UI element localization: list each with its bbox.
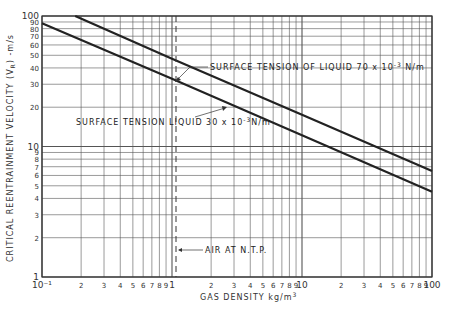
annotation-30: SURFACE TENSION LIQUID 30 x 10-3N/m <box>76 116 271 127</box>
y-tick-label: 5 <box>35 183 39 191</box>
y-tick-label: 70 <box>30 33 39 41</box>
x-axis-title: GAS DENSITY kg/m3 <box>200 291 297 302</box>
x-tick-label: 8 <box>417 282 421 290</box>
x-tick-label: 7 <box>410 282 414 290</box>
x-tick-label: 1 <box>169 280 175 290</box>
x-tick-label: 3 <box>102 282 106 290</box>
y-axis-title: CRITICAL REENTRAINMENT VELOCITY (VR) -m/… <box>6 34 16 262</box>
y-tick-label: 6 <box>35 172 40 180</box>
x-tick-label: 6 <box>271 282 276 290</box>
y-tick-label: 2 <box>35 235 39 243</box>
air-ntp-label: AIR AT N.T.P. <box>205 246 267 255</box>
x-tick-label: 3 <box>362 282 366 290</box>
x-tick-label: 9 <box>164 282 168 290</box>
y-tick-label: 100 <box>22 11 39 21</box>
x-tick-label: 100 <box>423 280 440 290</box>
x-tick-label: 4 <box>248 282 253 290</box>
x-tick-label: 4 <box>378 282 383 290</box>
x-tick-label: 7 <box>150 282 154 290</box>
x-tick-label: 2 <box>209 282 213 290</box>
x-tick-label: 8 <box>287 282 291 290</box>
x-tick-label: 4 <box>118 282 123 290</box>
x-tick-label: 2 <box>79 282 83 290</box>
data-series <box>42 16 432 192</box>
velocity-density-chart: 10⁻¹234567891234567891023456789100123456… <box>0 0 455 318</box>
y-tick-label: 1 <box>33 272 39 282</box>
y-tick-label: 40 <box>30 65 39 73</box>
arrow-head-icon <box>222 106 227 111</box>
y-tick-label: 10 <box>28 142 40 152</box>
y-tick-label: 3 <box>35 212 39 220</box>
x-tick-label: 6 <box>141 282 146 290</box>
x-tick-label: 6 <box>401 282 406 290</box>
series-line-0 <box>75 16 432 171</box>
y-tick-label: 7 <box>35 164 39 172</box>
y-tick-label: 60 <box>30 42 39 50</box>
y-tick-label: 4 <box>35 195 40 203</box>
x-tick-label: 3 <box>232 282 236 290</box>
x-tick-label: 5 <box>131 282 135 290</box>
arrow-head-icon <box>178 248 182 252</box>
x-tick-label: 5 <box>261 282 265 290</box>
x-tick-label: 2 <box>339 282 343 290</box>
y-tick-label: 50 <box>30 52 39 60</box>
x-tick-label: 5 <box>391 282 395 290</box>
x-tick-label: 8 <box>157 282 161 290</box>
x-tick-label: 7 <box>280 282 284 290</box>
y-tick-label: 20 <box>30 104 39 112</box>
annotation-30-arrow <box>195 108 225 117</box>
annotation-70: SURFACE TENSION OF LIQUID 70 x 10-3 N/m <box>210 61 425 72</box>
x-tick-label: 10 <box>296 280 308 290</box>
y-tick-label: 30 <box>30 81 39 89</box>
